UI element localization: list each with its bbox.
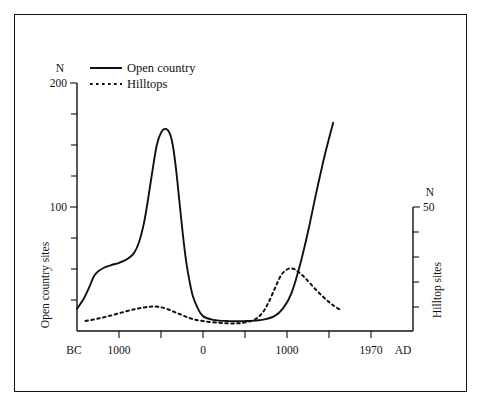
right-axis-unit-label: N bbox=[426, 186, 435, 198]
x-axis: BC 1000 0 1000 1970 AD bbox=[66, 331, 413, 356]
left-axis-title: Open country sites bbox=[39, 241, 52, 328]
left-axis-unit-label: N bbox=[56, 62, 65, 74]
right-axis: N 50 Hilltop sites bbox=[413, 186, 444, 331]
x-axis-label-ad: AD bbox=[395, 344, 412, 356]
series-group bbox=[77, 123, 342, 324]
right-axis-title: Hilltop sites bbox=[431, 262, 444, 318]
right-axis-tick-label-50: 50 bbox=[423, 201, 435, 213]
legend-label-open-country: Open country bbox=[127, 61, 196, 75]
legend-label-hilltops: Hilltops bbox=[127, 77, 167, 91]
legend: Open country Hilltops bbox=[90, 61, 196, 91]
figure-root: N 200 100 Open country sites N 50 Hillto… bbox=[0, 0, 486, 410]
left-axis-tick-label-100: 100 bbox=[50, 201, 68, 213]
left-axis-tick-label-200: 200 bbox=[50, 77, 68, 89]
x-axis-label-bc: BC bbox=[66, 344, 82, 356]
chart-canvas: N 200 100 Open country sites N 50 Hillto… bbox=[0, 0, 486, 410]
x-axis-label-1000ad: 1000 bbox=[276, 344, 299, 356]
left-axis: N 200 100 Open country sites bbox=[39, 62, 77, 331]
series-hilltops-line bbox=[85, 268, 341, 323]
x-axis-label-1000bc: 1000 bbox=[108, 344, 131, 356]
x-axis-label-1970: 1970 bbox=[360, 344, 383, 356]
series-open-country-line bbox=[77, 123, 333, 322]
x-axis-label-0: 0 bbox=[200, 344, 206, 356]
